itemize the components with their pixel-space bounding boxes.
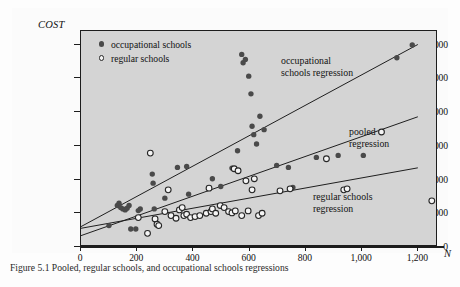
legend-item-regular: regular schools	[95, 51, 191, 65]
filled-circle-icon	[95, 41, 108, 46]
data-point-regular	[147, 150, 153, 156]
data-point-occupational	[106, 223, 111, 228]
data-point-regular	[249, 187, 255, 193]
data-point-occupational	[126, 203, 131, 208]
data-point-regular	[245, 208, 251, 214]
legend-label-regular: regular schools	[111, 53, 169, 64]
data-point-occupational	[246, 73, 251, 78]
data-point-occupational	[251, 132, 256, 137]
data-point-occupational	[235, 148, 240, 153]
regular-schools-regression-label: regular schools regression	[313, 191, 373, 214]
data-point-occupational	[394, 55, 399, 60]
figure-panel: COST N 0100,000200,000300,000400,000500,…	[12, 8, 448, 253]
data-point-regular	[145, 230, 151, 236]
data-point-occupational	[186, 192, 191, 197]
data-point-regular	[135, 215, 141, 221]
data-point-occupational	[274, 163, 279, 168]
data-point-regular	[287, 186, 293, 192]
data-point-occupational	[184, 164, 189, 169]
data-point-occupational	[335, 153, 340, 158]
caption-prefix: Figure 5.1	[10, 262, 49, 273]
data-point-regular	[277, 188, 283, 194]
data-point-occupational	[218, 184, 223, 189]
data-point-occupational	[210, 176, 215, 181]
data-point-occupational	[243, 57, 248, 62]
y-axis-title: COST	[38, 19, 64, 30]
data-point-regular	[324, 156, 330, 162]
data-point-occupational	[138, 206, 143, 211]
data-point-regular	[206, 185, 212, 191]
legend-item-occupational: occupational schools	[95, 37, 191, 51]
occupational-schools-regression-label: occupational schools regression	[281, 55, 353, 78]
legend-label-occupational: occupational schools	[111, 39, 191, 50]
data-point-occupational	[314, 155, 319, 160]
data-point-occupational	[261, 127, 266, 132]
data-point-occupational	[361, 153, 366, 158]
data-point-regular	[197, 213, 203, 219]
data-point-regular	[235, 168, 241, 174]
legend: occupational schools regular schools	[95, 37, 191, 65]
data-point-occupational	[239, 52, 244, 57]
plot-area: occupational schools regular schools occ…	[80, 30, 437, 246]
caption-text: Pooled, regular schools, and occupationa…	[52, 262, 289, 273]
data-point-occupational	[249, 124, 254, 129]
data-point-occupational	[410, 42, 415, 47]
data-point-occupational	[254, 141, 259, 146]
data-point-occupational	[128, 226, 133, 231]
data-point-occupational	[248, 91, 253, 96]
data-point-occupational	[162, 196, 167, 201]
data-point-regular	[232, 208, 238, 214]
pooled-regression-label: pooled regression	[349, 126, 389, 149]
data-point-occupational	[150, 180, 155, 185]
figure-root: COST N 0100,000200,000300,000400,000500,…	[0, 0, 460, 287]
data-point-occupational	[175, 165, 180, 170]
data-point-regular	[213, 210, 219, 216]
open-circle-icon	[95, 55, 108, 60]
data-point-occupational	[133, 226, 138, 231]
data-point-occupational	[152, 206, 157, 211]
data-point-regular	[165, 187, 171, 193]
figure-caption: Figure 5.1 Pooled, regular schools, and …	[10, 262, 450, 284]
data-point-regular	[179, 205, 185, 211]
data-point-regular	[259, 210, 265, 216]
data-point-occupational	[150, 171, 155, 176]
data-point-regular	[239, 213, 245, 219]
data-point-regular	[243, 178, 249, 184]
data-point-occupational	[286, 165, 291, 170]
data-point-regular	[429, 198, 435, 204]
data-point-occupational	[257, 114, 262, 119]
data-point-regular	[173, 215, 179, 221]
data-point-regular	[162, 209, 168, 215]
data-point-regular	[251, 176, 257, 182]
data-point-regular	[156, 223, 162, 229]
x-axis-line	[80, 246, 444, 248]
